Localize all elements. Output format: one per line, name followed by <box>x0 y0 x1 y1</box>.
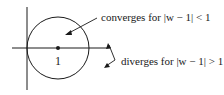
converges-arrowhead <box>65 30 72 35</box>
diverges-arrowhead-up <box>106 43 111 49</box>
converges-label: converges for |w − 1| < 1 <box>101 12 210 23</box>
diverges-label: diverges for |w − 1| > 1 <box>121 56 223 67</box>
center-label: 1 <box>55 55 61 67</box>
center-point <box>56 46 60 50</box>
